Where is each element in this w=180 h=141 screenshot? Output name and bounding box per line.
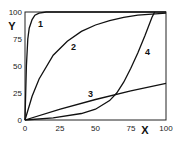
y-tick: 50 xyxy=(13,62,22,71)
x-tick: 100 xyxy=(159,124,173,133)
chart: 100 75 50 25 0 Y 0 25 50 75 100 X 1 2 3 … xyxy=(0,0,180,141)
x-axis-label: X xyxy=(141,124,149,136)
curve-label-3: 3 xyxy=(88,89,93,99)
x-tick: 75 xyxy=(127,124,136,133)
x-axis: 0 25 50 75 100 X xyxy=(23,124,173,136)
y-tick: 100 xyxy=(9,8,23,17)
curve-2 xyxy=(25,13,166,120)
curve-label-2: 2 xyxy=(71,42,76,52)
curve-label-4: 4 xyxy=(145,47,150,57)
x-tick: 50 xyxy=(91,124,100,133)
y-axis: 100 75 50 25 0 Y xyxy=(8,8,22,125)
y-tick: 25 xyxy=(13,89,22,98)
y-tick: 75 xyxy=(13,35,22,44)
curve-3 xyxy=(25,83,166,120)
curve-label-1: 1 xyxy=(38,19,43,29)
x-tick: 0 xyxy=(23,124,28,133)
x-tick: 25 xyxy=(56,124,65,133)
y-axis-label: Y xyxy=(8,20,16,32)
